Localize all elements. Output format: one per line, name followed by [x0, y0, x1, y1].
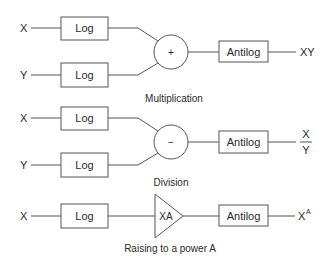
- multiplication-circuit: X Log Y Log + Antilog XY Multiplication: [20, 17, 315, 104]
- pow-log-label: Log: [75, 210, 93, 222]
- minus-sign: −: [168, 137, 174, 148]
- div-log-label-bottom: Log: [75, 159, 93, 171]
- div-output-numerator: X: [302, 128, 310, 140]
- wire: [108, 153, 158, 165]
- pow-caption: Raising to a power A: [124, 243, 216, 254]
- div-input-y: Y: [20, 159, 28, 171]
- mult-log-label-top: Log: [75, 22, 93, 34]
- division-circuit: X Log Y Log − Antilog X Y Division: [20, 107, 312, 188]
- div-caption: Division: [153, 177, 188, 188]
- mult-output: XY: [300, 46, 315, 58]
- mult-antilog-label: Antilog: [227, 46, 261, 58]
- mult-caption: Multiplication: [145, 93, 203, 104]
- power-circuit: X Log XA Antilog X A Raising to a power …: [20, 194, 311, 254]
- mult-input-x: X: [20, 22, 28, 34]
- div-input-x: X: [20, 112, 28, 124]
- mult-log-label-bottom: Log: [75, 69, 93, 81]
- wire: [108, 118, 158, 131]
- div-antilog-label: Antilog: [227, 136, 261, 148]
- pow-input-x: X: [20, 210, 28, 222]
- mult-input-y: Y: [20, 69, 28, 81]
- log-antilog-diagram: X Log Y Log + Antilog XY Multiplication …: [0, 0, 329, 258]
- pow-antilog-label: Antilog: [227, 210, 261, 222]
- pow-output-base: X: [298, 210, 306, 222]
- wire: [108, 63, 158, 75]
- amplifier-label: XA: [159, 211, 173, 222]
- div-log-label-top: Log: [75, 112, 93, 124]
- plus-sign: +: [168, 47, 174, 58]
- div-output-denominator: Y: [302, 144, 310, 156]
- wire: [108, 28, 158, 41]
- pow-output-exponent: A: [306, 208, 311, 215]
